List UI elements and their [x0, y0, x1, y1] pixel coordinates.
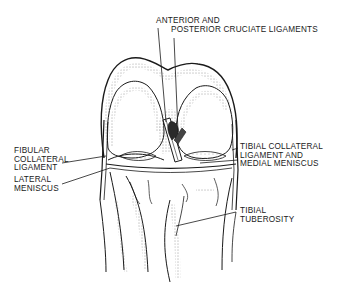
label-line: MEDIAL MENISCUS — [240, 160, 323, 169]
knee-anatomy-diagram: ANTERIOR AND POSTERIOR CRUCIATE LIGAMENT… — [0, 0, 341, 292]
label-line: TUBEROSITY — [240, 216, 294, 225]
label-tibial-tuberosity: TIBIAL TUBEROSITY — [240, 207, 294, 224]
label-tibial-collateral-medial-meniscus: TIBIAL COLLATERAL LIGAMENT AND MEDIAL ME… — [240, 143, 323, 169]
label-line: MENISCUS — [14, 185, 59, 194]
label-fibular-collateral-ligament: FIBULAR COLLATERAL LIGAMENT — [14, 147, 69, 173]
label-line: POSTERIOR CRUCIATE LIGAMENTS — [156, 26, 318, 35]
tibia-fibula — [100, 172, 236, 282]
label-line: LIGAMENT — [14, 164, 69, 173]
label-cruciate-ligaments: ANTERIOR AND POSTERIOR CRUCIATE LIGAMENT… — [156, 17, 318, 34]
label-lateral-meniscus: LATERAL MENISCUS — [14, 176, 59, 193]
